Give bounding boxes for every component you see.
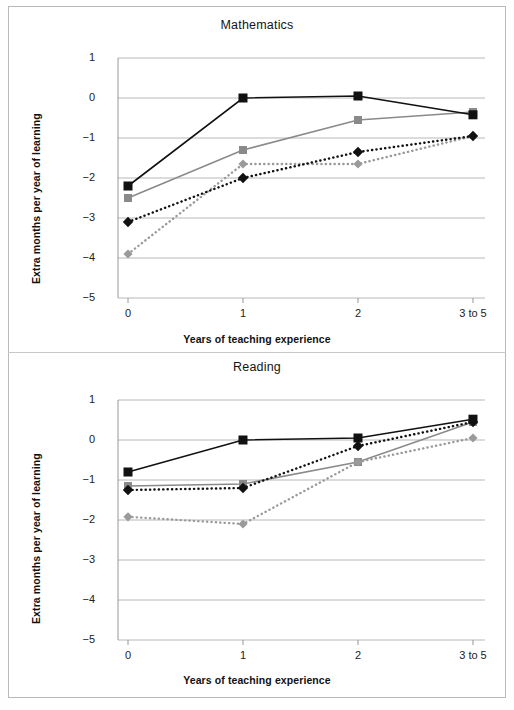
marker-diamond-gray-dotted-diamond — [468, 433, 477, 442]
y-tick-label: −2 — [57, 172, 95, 183]
marker-square-black-solid-square — [468, 110, 477, 119]
y-tick-label: 0 — [57, 434, 95, 445]
y-tick-label: −4 — [57, 252, 95, 263]
x-axis-label-mathematics: Years of teaching experience — [8, 333, 506, 345]
chart-title-mathematics: Mathematics — [8, 18, 506, 32]
marker-diamond-black-dotted-diamond — [353, 147, 363, 157]
plot-area-mathematics — [103, 44, 493, 312]
x-axis-label-reading: Years of teaching experience — [8, 674, 506, 686]
chart-panel-reading: Reading Extra months per year of learnin… — [8, 352, 506, 696]
marker-square-black-solid-square — [124, 468, 133, 477]
figure-page: Mathematics Extra months per year of lea… — [0, 0, 514, 710]
y-tick-label: −5 — [57, 634, 95, 645]
series-line-gray-dotted-diamond — [128, 438, 473, 524]
y-axis-label-mathematics: Extra months per year of learning — [30, 113, 42, 284]
chart-panel-mathematics: Mathematics Extra months per year of lea… — [8, 6, 506, 352]
marker-square-gray-solid-square — [354, 116, 362, 124]
series-line-gray-solid-square — [128, 422, 473, 486]
y-tick-label: −3 — [57, 554, 95, 565]
marker-square-black-solid-square — [238, 436, 247, 445]
marker-square-gray-solid-square — [124, 194, 132, 202]
marker-diamond-gray-dotted-diamond — [238, 519, 247, 528]
y-tick-label: −2 — [57, 514, 95, 525]
y-tick-label: 1 — [57, 394, 95, 405]
y-tick-label: −4 — [57, 594, 95, 605]
y-tick-label: 1 — [57, 52, 95, 63]
marker-diamond-black-dotted-diamond — [468, 131, 478, 141]
marker-diamond-gray-dotted-diamond — [353, 159, 362, 168]
marker-square-black-solid-square — [124, 182, 133, 191]
marker-diamond-black-dotted-diamond — [238, 173, 248, 183]
series-line-gray-solid-square — [128, 112, 473, 198]
series-line-black-solid-square — [128, 96, 473, 186]
marker-square-black-solid-square — [238, 94, 247, 103]
series-line-gray-dotted-diamond — [128, 136, 473, 254]
marker-square-black-solid-square — [353, 434, 362, 443]
y-tick-label: −5 — [57, 292, 95, 303]
y-tick-label: −1 — [57, 474, 95, 485]
y-axis-label-reading: Extra months per year of learning — [30, 453, 42, 624]
y-tick-label: −1 — [57, 132, 95, 143]
marker-square-gray-solid-square — [239, 146, 247, 154]
marker-square-black-solid-square — [353, 92, 362, 101]
plot-area-reading — [103, 386, 493, 654]
y-tick-label: −3 — [57, 212, 95, 223]
y-tick-label: 0 — [57, 92, 95, 103]
chart-title-reading: Reading — [8, 360, 506, 374]
series-line-black-solid-square — [128, 419, 473, 472]
marker-square-black-solid-square — [468, 415, 477, 424]
